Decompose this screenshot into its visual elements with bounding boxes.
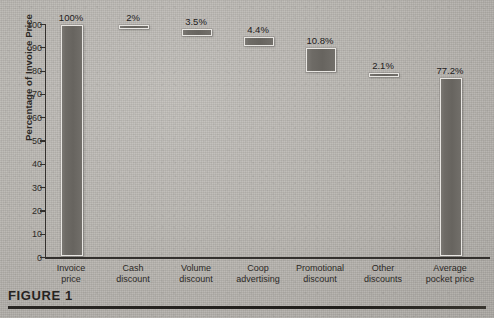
waterfall-chart: Percentage of Invoice Price 010203040506… [0, 0, 494, 318]
y-tick-label-90: 90 [16, 43, 42, 53]
bar-average-pocket-price [440, 78, 462, 257]
y-tick-label-0: 0 [16, 253, 42, 263]
figure-page: Percentage of Invoice Price 010203040506… [0, 0, 494, 318]
y-axis-tick-labels: 0102030405060708090100 [16, 0, 42, 318]
category-label-promotional-discount: Promotionaldiscount [296, 263, 344, 284]
bar-other-discounts [369, 73, 399, 77]
category-label-volume-discount: Volumediscount [179, 263, 213, 284]
category-label-cash-discount: Cashdiscount [116, 263, 150, 284]
bar-cash-discount [119, 25, 149, 29]
bar-promotional-discount [306, 48, 336, 72]
bar-value-label-other-discounts: 2.1% [372, 60, 394, 71]
category-label-other-discounts: Otherdiscounts [364, 263, 402, 284]
figure-caption: FIGURE 1 [8, 288, 73, 303]
y-axis-line [45, 24, 46, 258]
bar-coop-advertising [244, 37, 274, 46]
y-tick-label-20: 20 [16, 206, 42, 216]
bar-value-label-volume-discount: 3.5% [185, 16, 207, 27]
bar-value-label-promotional-discount: 10.8% [307, 35, 334, 46]
category-label-invoice-price: Invoiceprice [57, 263, 86, 284]
bar-value-label-invoice-price: 100% [59, 12, 83, 23]
bar-value-label-cash-discount: 2% [126, 12, 140, 23]
y-tick-label-70: 70 [16, 89, 42, 99]
category-label-coop-advertising: Coopadvertising [236, 263, 280, 284]
y-tick-label-40: 40 [16, 159, 42, 169]
y-tick-label-100: 100 [16, 20, 42, 30]
category-label-average-pocket-price: Averagepocket price [426, 263, 475, 284]
bar-invoice-price [61, 25, 83, 257]
x-axis-line [45, 257, 490, 259]
bar-value-label-coop-advertising: 4.4% [247, 24, 269, 35]
y-tick-label-50: 50 [16, 136, 42, 146]
y-tick-label-10: 10 [16, 229, 42, 239]
caption-rule [8, 306, 486, 309]
y-tick-label-60: 60 [16, 113, 42, 123]
y-tick-label-80: 80 [16, 66, 42, 76]
bar-volume-discount [182, 29, 212, 36]
bar-value-label-average-pocket-price: 77.2% [437, 65, 464, 76]
y-tick-label-30: 30 [16, 183, 42, 193]
